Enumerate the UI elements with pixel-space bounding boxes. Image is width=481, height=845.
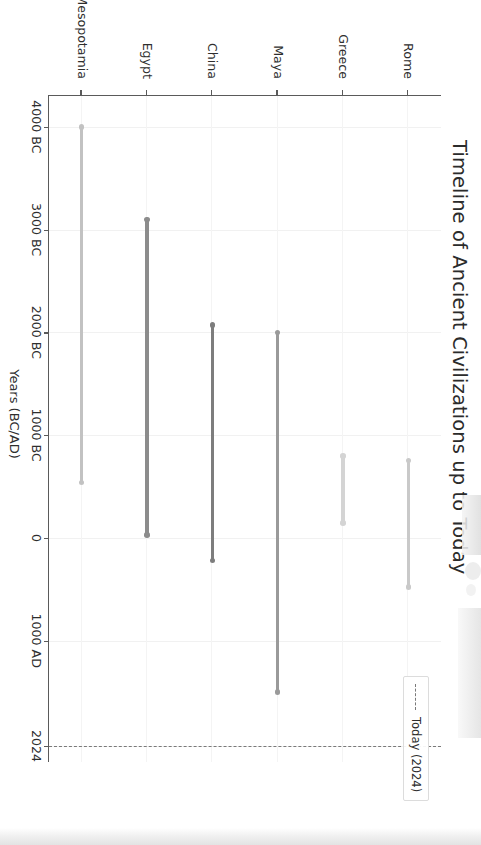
scan-artifact-d: [458, 608, 481, 738]
timeline-bar[interactable]: [80, 127, 83, 483]
gridline-vertical: [49, 230, 441, 231]
y-tick-label-china: China: [205, 43, 220, 79]
rotated-figure-wrapper: Timeline of Ancient Civilizations up to …: [0, 0, 481, 828]
today-line: [49, 746, 441, 747]
timeline-bar-start-cap: [275, 330, 281, 336]
x-tick-label: 2000 BC: [29, 306, 44, 359]
y-tick-label-mesopotamia: Mesopotamia: [74, 0, 89, 79]
y-tick-mark: [211, 90, 212, 95]
plot-area: [49, 96, 441, 762]
gridline-vertical: [49, 332, 441, 333]
x-axis-title: Years (BC/AD): [7, 0, 22, 828]
chart-figure: Timeline of Ancient Civilizations up to …: [0, 0, 481, 828]
timeline-bar[interactable]: [145, 219, 148, 535]
y-tick-label-maya: Maya: [270, 45, 285, 79]
timeline-bar-end-cap: [144, 532, 150, 538]
gridline-horizontal: [407, 96, 408, 762]
x-tick-mark: [44, 641, 49, 642]
timeline-bar[interactable]: [407, 461, 410, 587]
gridline-horizontal: [342, 96, 343, 762]
x-tick-mark: [44, 127, 49, 128]
x-tick-mark: [44, 435, 49, 436]
x-tick-mark: [44, 230, 49, 231]
legend-dashed-line-icon: [416, 684, 417, 710]
page-canvas: Timeline of Ancient Civilizations up to …: [0, 0, 481, 845]
scan-artifact-a: [462, 495, 481, 555]
chart-legend[interactable]: Today (2024): [403, 676, 429, 801]
timeline-bar-end-cap: [406, 584, 412, 590]
x-tick-label: 0: [29, 534, 44, 542]
timeline-bar-end-cap: [275, 689, 281, 695]
x-tick-label: 1000 AD: [29, 614, 44, 668]
timeline-bar[interactable]: [276, 332, 279, 692]
axis-spine-left: [48, 95, 441, 96]
y-tick-mark: [80, 90, 81, 95]
x-tick-mark: [44, 538, 49, 539]
timeline-bar-start-cap: [210, 322, 216, 328]
y-axis-category-labels: RomeGreeceMayaChinaEgyptMesopotamia: [48, 0, 441, 89]
timeline-bar-end-cap: [340, 520, 346, 526]
legend-entry-label: Today (2024): [409, 717, 423, 792]
y-tick-mark: [146, 90, 147, 95]
axis-spine-bottom: [48, 96, 49, 762]
x-tick-label: 2024: [29, 730, 44, 762]
gridline-vertical: [49, 435, 441, 436]
x-tick-label: 3000 BC: [29, 203, 44, 256]
x-tick-label: 1000 BC: [29, 409, 44, 462]
gridline-vertical: [49, 127, 441, 128]
x-tick-label: 4000 BC: [29, 100, 44, 153]
y-tick-mark: [342, 90, 343, 95]
scan-artifact-c: [466, 584, 476, 596]
y-tick-label-egypt: Egypt: [140, 43, 155, 79]
gridline-vertical: [49, 641, 441, 642]
x-tick-mark: [44, 746, 49, 747]
timeline-bar-start-cap: [340, 453, 346, 459]
page-bottom-shadow: [0, 828, 481, 845]
y-tick-label-rome: Rome: [401, 43, 416, 79]
timeline-bar[interactable]: [211, 325, 214, 560]
timeline-bar-start-cap: [79, 124, 85, 130]
y-tick-label-greece: Greece: [336, 34, 351, 79]
timeline-bar-start-cap: [406, 458, 412, 464]
scan-artifact-b: [465, 562, 481, 580]
timeline-bar-start-cap: [144, 217, 150, 223]
timeline-bar-end-cap: [79, 480, 85, 486]
y-tick-mark: [407, 90, 408, 95]
x-tick-mark: [44, 332, 49, 333]
y-tick-mark: [276, 90, 277, 95]
timeline-bar[interactable]: [341, 456, 344, 523]
gridline-vertical: [49, 538, 441, 539]
timeline-bar-end-cap: [210, 558, 216, 564]
